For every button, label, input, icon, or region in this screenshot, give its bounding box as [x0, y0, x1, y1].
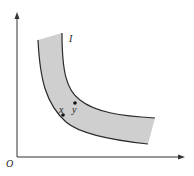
diagram-canvas: O I x y — [0, 0, 194, 176]
origin-label: O — [6, 158, 13, 169]
point-y-label: y — [71, 104, 77, 115]
point-x-label: x — [58, 104, 64, 115]
band-label: I — [68, 33, 73, 44]
x-axis-arrow-icon — [178, 155, 185, 160]
y-axis-arrow-icon — [15, 12, 20, 19]
axes — [15, 12, 186, 160]
indifference-band — [38, 33, 155, 144]
